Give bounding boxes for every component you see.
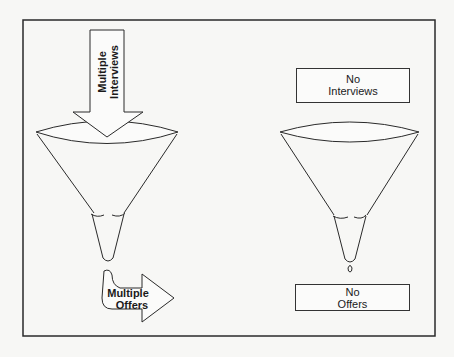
output-arrow-label-line2: Offers bbox=[104, 299, 152, 311]
no-interviews-box: No Interviews bbox=[296, 68, 410, 103]
input-arrow-label-line2: Interviews bbox=[108, 22, 120, 122]
output-arrow-label: Multiple Offers bbox=[104, 287, 152, 311]
no-offers-box: No Offers bbox=[295, 284, 410, 311]
input-arrow-label: Multiple Interviews bbox=[96, 22, 120, 122]
no-interviews-line1: No bbox=[297, 73, 409, 85]
no-interviews-line2: Interviews bbox=[297, 85, 409, 97]
output-arrow-label-line1: Multiple bbox=[104, 287, 152, 299]
no-offers-line2: Offers bbox=[296, 298, 409, 310]
left-funnel bbox=[36, 121, 178, 261]
no-offers-line1: No bbox=[296, 286, 409, 298]
no-interviews-text: No Interviews bbox=[297, 69, 409, 97]
drip-drop-icon bbox=[348, 266, 352, 273]
right-funnel bbox=[280, 122, 419, 272]
no-offers-text: No Offers bbox=[296, 285, 409, 310]
input-arrow-label-line1: Multiple bbox=[96, 22, 108, 122]
